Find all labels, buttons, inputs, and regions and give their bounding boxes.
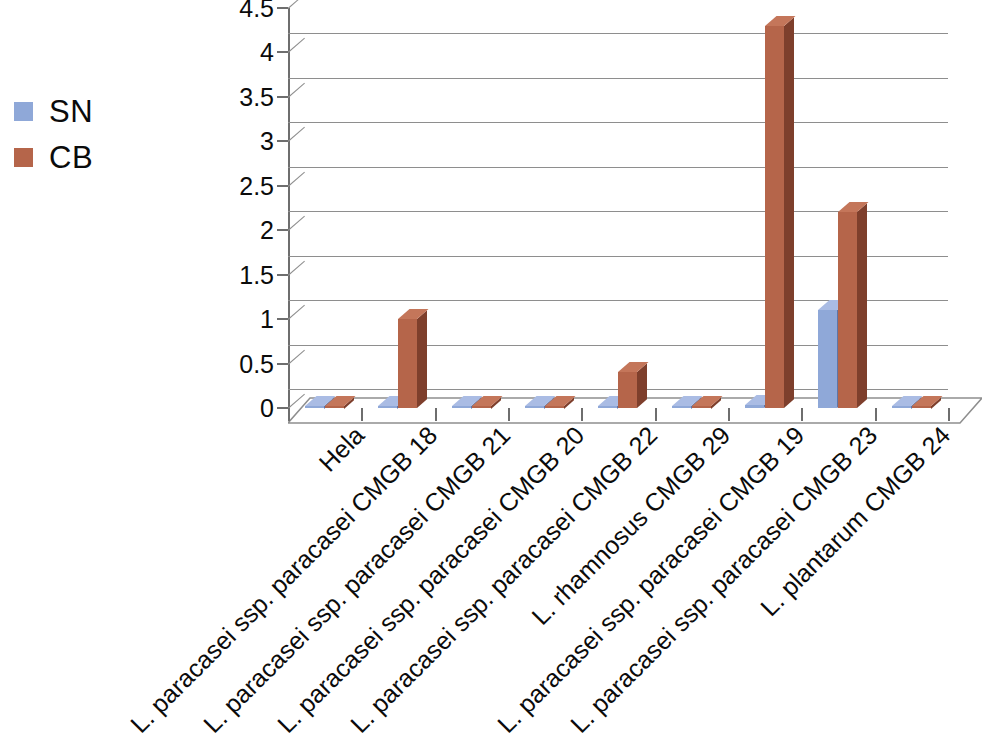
y-axis-tick-label: 3.5 <box>239 84 274 109</box>
x-axis-tick-mark <box>728 408 730 421</box>
bar-cb <box>765 26 784 408</box>
x-axis-tick-mark <box>875 408 877 421</box>
y-axis-tick-label: 0.5 <box>239 351 274 376</box>
y-axis-tick-mark <box>277 7 288 9</box>
bar-face-side <box>857 204 867 408</box>
x-axis-label: L. paracasei ssp. paracasei CMGB 18 <box>0 422 442 737</box>
x-axis-label: L. plantarum CMGB 24 <box>513 422 955 737</box>
plot-area: 00.511.522.533.544.5 <box>288 8 948 408</box>
x-axis-label: L. paracasei ssp. paracasei CMGB 23 <box>440 422 882 737</box>
x-axis-tick-mark <box>581 408 583 421</box>
x-axis-label: L. paracasei ssp. paracasei CMGB 21 <box>73 422 515 737</box>
legend-label-cb: CB <box>49 142 93 173</box>
y-axis-tick-mark <box>277 96 288 98</box>
x-axis-tick-mark <box>508 408 510 421</box>
bar-face-front <box>618 372 637 408</box>
y-axis-tick-label: 2.5 <box>239 173 274 198</box>
y-axis-tick-mark <box>277 229 288 231</box>
chart-legend: SN CB <box>14 88 134 180</box>
x-axis-tick-mark <box>361 408 363 421</box>
bar-face-front <box>838 212 857 408</box>
bar-face-front <box>765 26 784 408</box>
bar-face-side <box>784 17 794 408</box>
bar-group <box>728 8 801 408</box>
y-axis-tick-mark <box>277 185 288 187</box>
y-axis-tick-label: 2 <box>260 218 274 243</box>
x-axis-label: L. rhamnosus CMGB 29 <box>293 422 735 737</box>
bar-cb <box>398 319 417 408</box>
y-axis-tick-mark <box>277 51 288 53</box>
x-axis <box>288 408 982 422</box>
bar-group <box>581 8 654 408</box>
y-axis-tick-mark <box>277 363 288 365</box>
legend-square-icon-cb <box>14 148 33 167</box>
y-axis-tick-label: 1.5 <box>239 262 274 287</box>
bar-group <box>435 8 508 408</box>
y-axis-tick-mark <box>277 140 288 142</box>
y-axis-tick-label: 1 <box>260 307 274 332</box>
bar-face-side <box>637 364 647 408</box>
x-axis-tick-mark <box>948 408 950 421</box>
x-axis-tick-mark <box>288 408 290 421</box>
bar-group <box>655 8 728 408</box>
bar-group <box>288 8 361 408</box>
bar-group <box>875 8 948 408</box>
bar-face-side <box>417 310 427 408</box>
legend-label-sn: SN <box>49 96 93 127</box>
x-axis-tick-mark <box>655 408 657 421</box>
bar-face-front <box>398 319 417 408</box>
bar-sn <box>818 310 837 408</box>
bar-cb <box>838 212 857 408</box>
legend-item-cb: CB <box>14 134 134 180</box>
legend-item-sn: SN <box>14 88 134 134</box>
bar-group <box>361 8 434 408</box>
y-axis-tick-mark <box>277 407 288 409</box>
x-axis-tick-mark <box>435 408 437 421</box>
y-axis-tick-label: 0 <box>260 396 274 421</box>
bar-group <box>508 8 581 408</box>
x-axis-tick-mark <box>801 408 803 421</box>
x-axis-label: L. paracasei ssp. paracasei CMGB 22 <box>220 422 662 737</box>
legend-square-icon-sn <box>14 102 33 121</box>
x-axis-label: L. paracasei ssp. paracasei CMGB 19 <box>366 422 808 737</box>
x-axis-label: Hela <box>0 422 368 737</box>
y-axis-tick-mark <box>277 274 288 276</box>
bar-cb <box>618 372 637 408</box>
bar-group <box>801 8 874 408</box>
bar-series-container <box>288 8 948 408</box>
y-axis-tick-label: 3 <box>260 129 274 154</box>
y-axis-tick-label: 4 <box>260 40 274 65</box>
bar-face-front <box>818 310 837 408</box>
y-axis-tick-label: 4.5 <box>239 0 274 21</box>
x-axis-label: L. paracasei ssp. paracasei CMGB 20 <box>146 422 588 737</box>
y-axis-tick-mark <box>277 318 288 320</box>
